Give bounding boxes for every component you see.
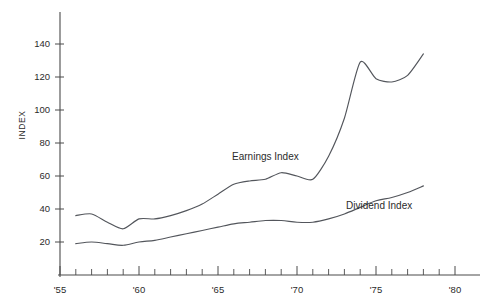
x-tick-label: '55 <box>54 284 66 295</box>
y-tick-label: 80 <box>39 137 50 148</box>
x-axis-tick-labels: '55'60'65'70'75'80 <box>54 284 461 295</box>
x-tick-label: '60 <box>133 284 145 295</box>
y-tick-label: 120 <box>34 71 50 82</box>
x-tick-label: '75 <box>370 284 382 295</box>
y-axis-tick-labels: 20406080100120140 <box>34 38 50 247</box>
y-tick-label: 60 <box>39 170 50 181</box>
series-annotation-labels: Earnings IndexDividend Index <box>232 151 412 212</box>
x-tick-label: '65 <box>212 284 224 295</box>
y-tick-label: 40 <box>39 203 50 214</box>
x-tick-label: '70 <box>291 284 303 295</box>
y-axis-title: INDEX <box>17 111 27 140</box>
y-tick-label: 20 <box>39 236 50 247</box>
x-axis-group: '55'60'65'70'75'80 <box>54 266 480 295</box>
chart-container: 20406080100120140 INDEX '55'60'65'70'75'… <box>0 0 496 304</box>
y-tick-label: 100 <box>34 104 50 115</box>
x-tick-label: '80 <box>449 284 461 295</box>
y-axis-group: 20406080100120140 INDEX <box>17 12 64 277</box>
line-chart-figure: 20406080100120140 INDEX '55'60'65'70'75'… <box>0 0 496 304</box>
x-axis-minor-ticks <box>60 266 455 275</box>
earnings-index-label: Earnings Index <box>232 151 299 162</box>
y-tick-label: 140 <box>34 38 50 49</box>
dividend-index-label: Dividend Index <box>346 200 412 211</box>
dividend-index-line <box>76 186 424 245</box>
